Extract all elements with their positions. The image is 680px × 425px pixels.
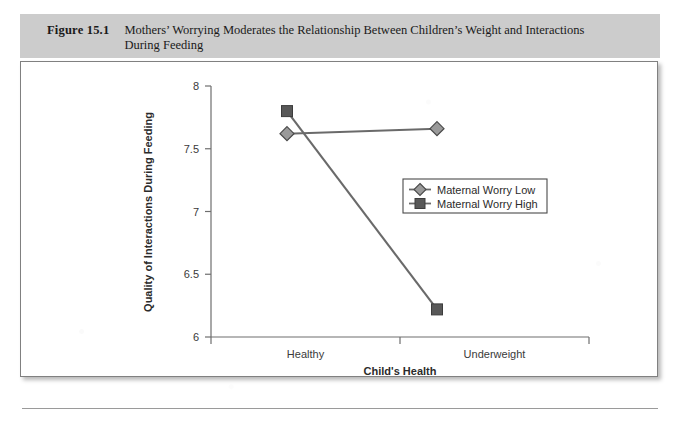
legend-label-low: Maternal Worry Low	[437, 184, 535, 196]
chart-panel: 8 7.5 7 6.5 6 Healthy Underweight Child'…	[20, 61, 658, 377]
y-tick-label-6.5: 6.5	[184, 268, 199, 280]
data-point-low-healthy	[280, 127, 294, 141]
line-chart: 8 7.5 7 6.5 6 Healthy Underweight Child'…	[21, 62, 659, 378]
y-axis-title: Quality of Interactions During Feeding	[142, 112, 154, 312]
y-tick-label-7: 7	[193, 206, 199, 218]
square-marker-icon	[415, 199, 425, 209]
x-category-label-healthy: Healthy	[287, 348, 325, 360]
x-axis	[211, 337, 589, 344]
data-point-high-healthy	[282, 106, 293, 117]
data-point-low-underweight	[430, 122, 444, 136]
page-bottom-rule	[22, 408, 658, 409]
y-tick-label-8: 8	[193, 80, 199, 92]
x-axis-title: Child's Health	[364, 365, 437, 377]
chart-canvas: 8 7.5 7 6.5 6 Healthy Underweight Child'…	[21, 62, 659, 378]
y-axis	[205, 86, 211, 337]
figure-number-label: Figure 15.1	[20, 14, 109, 38]
x-category-label-underweight: Underweight	[464, 348, 526, 360]
y-tick-label-7.5: 7.5	[184, 143, 199, 155]
series-maternal-worry-low	[280, 122, 444, 141]
figure-caption-band: Figure 15.1 Mothers’ Worrying Moderates …	[20, 14, 660, 58]
legend-label-high: Maternal Worry High	[437, 198, 538, 210]
chart-legend: Maternal Worry Low Maternal Worry High	[403, 179, 547, 213]
y-tick-label-6: 6	[193, 331, 199, 343]
data-point-high-underweight	[432, 304, 443, 315]
figure-caption-text: Mothers’ Worrying Moderates the Relation…	[109, 14, 636, 54]
